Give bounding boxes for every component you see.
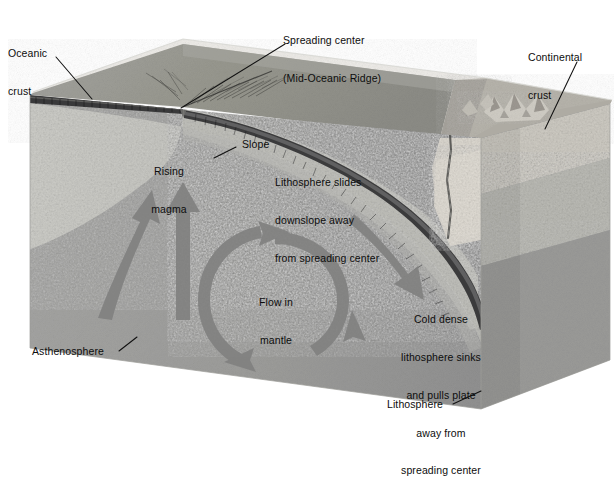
- label-flow-in-mantle: Flow in mantle: [240, 271, 312, 359]
- label-rising-magma-line2: magma: [133, 203, 205, 216]
- label-rising-magma: Rising magma: [133, 140, 205, 228]
- label-lithosphere-slides-line3: from spreading center: [275, 252, 379, 265]
- label-lithosphere-slides: Lithosphere slides downslope away from s…: [275, 151, 379, 277]
- label-continental-crust-line1: Continental: [528, 51, 582, 64]
- label-cold-dense-line1: Cold dense: [382, 313, 500, 326]
- label-lithosphere: Lithosphere: [387, 398, 443, 411]
- label-cold-dense-line2: lithosphere sinks: [382, 351, 500, 364]
- label-continental-crust: Continental crust: [528, 26, 582, 114]
- label-oceanic-crust: Oceanic crust: [8, 22, 47, 110]
- label-flow-in-mantle-line2: mantle: [240, 334, 312, 347]
- label-rising-magma-line1: Rising: [133, 165, 205, 178]
- label-spreading-center-line1: Spreading center: [283, 34, 381, 47]
- label-cold-dense-lithosphere: Cold dense lithosphere sinks and pulls p…: [382, 288, 500, 480]
- label-flow-in-mantle-line1: Flow in: [240, 296, 312, 309]
- label-spreading-center-line2: (Mid-Oceanic Ridge): [283, 72, 381, 85]
- label-slope: Slope: [242, 138, 269, 151]
- label-cold-dense-line5: spreading center: [382, 464, 500, 477]
- label-cold-dense-line4: away from: [382, 427, 500, 440]
- label-lithosphere-slides-line2: downslope away: [275, 214, 379, 227]
- label-oceanic-crust-line2: crust: [8, 85, 47, 98]
- label-oceanic-crust-line1: Oceanic: [8, 47, 47, 60]
- label-spreading-center: Spreading center (Mid-Oceanic Ridge): [283, 9, 381, 97]
- label-asthenosphere: Asthenosphere: [32, 345, 104, 358]
- label-continental-crust-line2: crust: [528, 89, 582, 102]
- label-lithosphere-slides-line1: Lithosphere slides: [275, 176, 379, 189]
